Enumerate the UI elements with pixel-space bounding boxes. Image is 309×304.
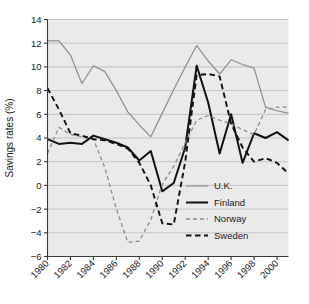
x-tick-label: 1982: [51, 258, 74, 281]
x-axis-ticks: 1980198219841986198819901992199419961998…: [28, 257, 280, 281]
legend-label-norway: Norway: [214, 213, 246, 224]
y-axis-title: Savings rates (%): [4, 99, 15, 178]
y-tick-label: 2: [36, 156, 41, 167]
y-tick-label: 8: [36, 85, 41, 96]
x-tick-label: 1986: [97, 258, 120, 281]
x-tick-label: 1984: [74, 258, 97, 281]
y-axis-ticks: −6−4−202468101214: [31, 14, 48, 262]
y-tick-label: −4: [31, 227, 42, 238]
y-tick-label: 6: [36, 109, 41, 120]
y-tick-label: 14: [31, 14, 42, 25]
y-tick-label: 4: [36, 132, 41, 143]
legend-label-finland: Finland: [214, 197, 245, 208]
y-tick-label: 12: [31, 38, 42, 49]
chart-canvas: −6−4−202468101214 1980198219841986198819…: [0, 0, 309, 304]
y-tick-label: 10: [31, 61, 42, 72]
legend-label-sweden: Sweden: [214, 230, 248, 241]
y-tick-label: 0: [36, 180, 41, 191]
x-tick-label: 1994: [189, 258, 212, 281]
x-tick-label: 1998: [235, 258, 258, 281]
x-tick-label: 1996: [212, 258, 235, 281]
x-tick-label: 1992: [166, 258, 189, 281]
x-tick-label: 1988: [120, 258, 143, 281]
savings-rates-chart: −6−4−202468101214 1980198219841986198819…: [0, 0, 309, 304]
x-tick-label: 1990: [143, 258, 166, 281]
y-tick-label: −2: [31, 204, 42, 215]
legend-label-u-k: U.K.: [214, 180, 232, 191]
x-tick-label: 2000: [258, 258, 281, 281]
